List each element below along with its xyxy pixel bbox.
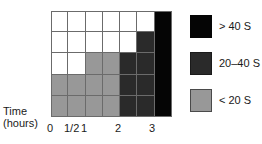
heatmap-cell — [68, 75, 85, 96]
legend: > 40 S 20–40 S < 20 S — [190, 14, 260, 114]
heatmap-cell — [103, 75, 120, 96]
heatmap-plot-area — [51, 11, 172, 117]
heatmap-cell — [86, 53, 103, 74]
heatmap-cell — [155, 75, 172, 96]
heatmap-cell — [103, 11, 120, 32]
heatmap-cell — [68, 53, 85, 74]
x-axis-title-line1: Time — [3, 105, 27, 117]
heatmap-cell — [137, 11, 154, 32]
heatmap-cell — [137, 32, 154, 53]
heatmap-cell — [68, 11, 85, 32]
legend-item-mid: 20–40 S — [190, 51, 260, 75]
x-tick-label: 1 — [81, 122, 87, 134]
x-tick-label: 1/2 — [64, 122, 79, 134]
heatmap-cell — [155, 11, 172, 32]
heatmap-cell — [155, 53, 172, 74]
heatmap-cell — [155, 96, 172, 117]
heatmap-cell — [120, 32, 137, 53]
heatmap-cell — [137, 53, 154, 74]
legend-swatch-low — [190, 89, 212, 112]
heatmap-cell — [51, 32, 68, 53]
heatmap-cell — [103, 53, 120, 74]
heatmap-cell — [120, 96, 137, 117]
heatmap-cell — [120, 11, 137, 32]
heatmap-cell — [86, 11, 103, 32]
legend-swatch-high — [190, 15, 212, 38]
heatmap-cell — [137, 75, 154, 96]
heatmap-grid — [51, 11, 172, 117]
heatmap-cell — [137, 96, 154, 117]
legend-label-mid: 20–40 S — [219, 57, 260, 69]
heatmap-cell — [51, 75, 68, 96]
heatmap-cell — [51, 96, 68, 117]
heatmap-cell — [120, 53, 137, 74]
legend-swatch-mid — [190, 52, 212, 75]
legend-item-high: > 40 S — [190, 14, 260, 38]
heatmap-cell — [103, 32, 120, 53]
x-tick-label: 0 — [47, 122, 53, 134]
legend-label-low: < 20 S — [219, 94, 251, 106]
x-tick-label: 2 — [115, 122, 121, 134]
heatmap-cell — [86, 32, 103, 53]
x-axis-title: Time (hours) — [3, 105, 49, 129]
x-axis-title-line2: (hours) — [3, 117, 49, 129]
heatmap-cell — [103, 96, 120, 117]
x-tick-label: 3 — [149, 122, 155, 134]
heatmap-figure: Time (hours) 01/2123 > 40 S 20–40 S < 20… — [0, 0, 262, 144]
heatmap-cell — [86, 75, 103, 96]
heatmap-cell — [51, 53, 68, 74]
legend-label-high: > 40 S — [219, 20, 251, 32]
heatmap-cell — [155, 32, 172, 53]
heatmap-cell — [86, 96, 103, 117]
heatmap-cell — [120, 75, 137, 96]
heatmap-cell — [68, 32, 85, 53]
heatmap-cell — [51, 11, 68, 32]
legend-item-low: < 20 S — [190, 88, 260, 112]
heatmap-cell — [68, 96, 85, 117]
